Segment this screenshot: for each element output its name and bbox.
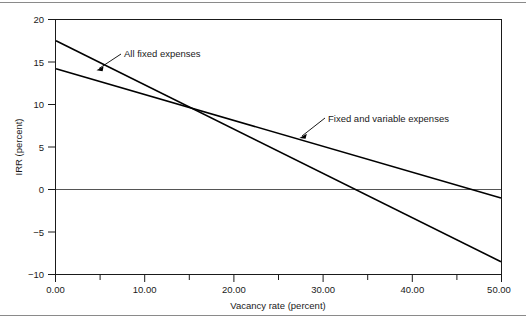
y-tick-label-10: 10	[33, 99, 44, 110]
y-tick-label-0: 0	[39, 184, 44, 195]
y-tick-label-15: 15	[33, 57, 44, 68]
y-tick-label-5: 5	[39, 142, 44, 153]
series-line-fixed-and-variable-expenses	[56, 69, 501, 198]
series-line-all-fixed-expenses	[56, 41, 501, 262]
plot-area-frame	[56, 20, 502, 275]
y-axis-title: IRR (percent)	[13, 118, 24, 175]
x-tick-label-0: 0.00	[46, 284, 65, 295]
y-tick-label-minus5: −5	[33, 227, 44, 238]
irr-vacancy-line-chart: 20 15 10 5 0 −5 −10 IRR (percent) 0.00 1…	[0, 0, 526, 327]
annotation-label-fixed-and-variable-expenses: Fixed and variable expenses	[328, 113, 449, 124]
y-tick-label-minus10: −10	[28, 269, 44, 280]
x-tick-label-50: 50.00	[487, 284, 511, 295]
annotation-label-all-fixed-expenses: All fixed expenses	[124, 48, 201, 59]
x-tick-label-40: 40.00	[400, 284, 424, 295]
figure-container: 20 15 10 5 0 −5 −10 IRR (percent) 0.00 1…	[0, 0, 526, 327]
x-tick-label-30: 30.00	[311, 284, 335, 295]
x-axis-minor-ticks	[100, 275, 457, 281]
y-axis-ticks	[48, 20, 56, 275]
x-tick-label-10: 10.00	[133, 284, 157, 295]
y-tick-label-20: 20	[33, 14, 44, 25]
x-tick-label-20: 20.00	[222, 284, 246, 295]
x-axis-title: Vacancy rate (percent)	[230, 300, 325, 311]
annotation-leader-fixed-and-variable	[299, 118, 325, 139]
